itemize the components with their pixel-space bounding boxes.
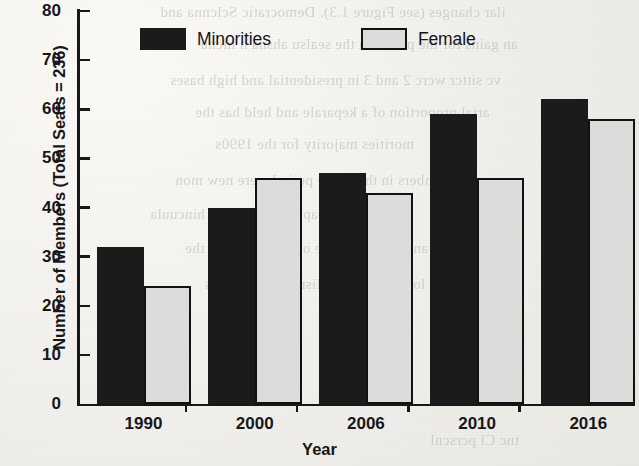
plot-area bbox=[80, 11, 636, 404]
bar-group bbox=[97, 11, 191, 404]
y-axis-tick-mark bbox=[79, 305, 90, 308]
bar-female-2010 bbox=[477, 178, 524, 404]
bar-female-1990 bbox=[144, 286, 191, 404]
y-axis-tick-mark bbox=[79, 59, 90, 62]
bar-minorities-2006 bbox=[319, 173, 366, 404]
x-axis-tick-mark bbox=[518, 404, 521, 412]
bar-chart: Number of Members (Total Seats = 236) 01… bbox=[0, 0, 639, 466]
bar-minorities-2010 bbox=[430, 114, 477, 404]
legend-swatch-female-icon bbox=[361, 28, 407, 50]
y-axis-tick-mark bbox=[79, 10, 90, 13]
y-axis-tick-label: 30 bbox=[27, 247, 61, 267]
y-axis-tick-mark bbox=[79, 255, 90, 258]
bar-minorities-1990 bbox=[97, 247, 144, 404]
bar-group bbox=[541, 11, 635, 404]
x-axis-tick-label: 2010 bbox=[432, 414, 522, 434]
y-axis-tick-mark bbox=[79, 108, 90, 111]
bar-minorities-2016 bbox=[541, 99, 588, 404]
y-axis-tick-mark bbox=[79, 354, 90, 357]
bar-group bbox=[430, 11, 524, 404]
legend-label-minorities: Minorities bbox=[197, 29, 271, 50]
y-axis-tick-label: 0 bbox=[27, 394, 61, 414]
x-axis-tick-mark bbox=[185, 404, 188, 412]
y-axis-tick-labels: 01020304050607080 bbox=[27, 0, 61, 466]
x-axis-tick-label: 2016 bbox=[543, 414, 633, 434]
legend-entry-minorities: Minorities bbox=[140, 28, 271, 50]
y-axis-tick-label: 50 bbox=[27, 148, 61, 168]
x-axis-tick-label: 2006 bbox=[321, 414, 411, 434]
legend-entry-female: Female bbox=[361, 28, 476, 50]
y-axis-tick-label: 10 bbox=[27, 345, 61, 365]
bar-minorities-2000 bbox=[208, 208, 255, 405]
x-axis-tick-mark bbox=[296, 404, 299, 412]
y-axis-tick-label: 70 bbox=[27, 50, 61, 70]
chart-legend: Minorities Female bbox=[140, 28, 476, 50]
bar-female-2016 bbox=[588, 119, 635, 404]
legend-swatch-minorities-icon bbox=[140, 28, 186, 50]
y-axis-tick-label: 60 bbox=[27, 99, 61, 119]
legend-label-female: Female bbox=[418, 29, 476, 50]
x-axis-tick-label: 1990 bbox=[99, 414, 189, 434]
bar-group bbox=[319, 11, 413, 404]
y-axis-tick-label: 80 bbox=[27, 1, 61, 21]
y-axis-tick-mark bbox=[79, 157, 90, 160]
x-axis-tick-mark bbox=[407, 404, 410, 412]
bar-female-2000 bbox=[255, 178, 302, 404]
x-axis-label: Year bbox=[0, 440, 639, 459]
x-axis-tick-label: 2000 bbox=[210, 414, 300, 434]
bar-female-2006 bbox=[366, 193, 413, 404]
y-axis-tick-label: 40 bbox=[27, 198, 61, 218]
y-axis-tick-mark bbox=[79, 206, 90, 209]
bar-group bbox=[208, 11, 302, 404]
y-axis-tick-label: 20 bbox=[27, 296, 61, 316]
